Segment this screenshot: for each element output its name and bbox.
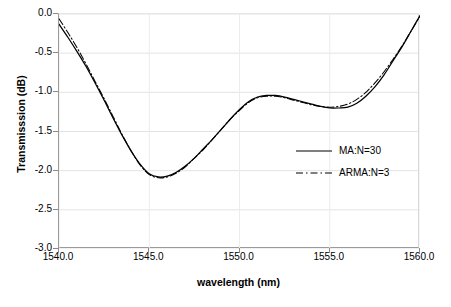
- y-tick-label: -2.0: [4, 165, 52, 175]
- x-tick-mark: [419, 248, 420, 253]
- x-tick-label: 1540.0: [28, 252, 88, 262]
- y-tick-label: -0.5: [4, 47, 52, 57]
- y-axis-title: Transmisssion (dB): [15, 24, 27, 224]
- gridlines: [59, 14, 420, 249]
- x-tick-mark: [148, 248, 149, 253]
- legend-label-arma: ARMA:N=3: [339, 168, 389, 178]
- x-tick-mark: [239, 248, 240, 253]
- legend-item-arma: ARMA:N=3: [295, 162, 410, 184]
- x-tick-mark: [329, 248, 330, 253]
- plot-area: [58, 13, 419, 248]
- x-axis-title: wavelength (nm): [58, 276, 419, 288]
- x-tick-label: 1545.0: [118, 252, 178, 262]
- chart-legend: MA:N=30 ARMA:N=3: [295, 140, 410, 184]
- x-tick-label: 1550.0: [209, 252, 269, 262]
- y-tick-label: -1.0: [4, 86, 52, 96]
- y-tick-label: -2.5: [4, 204, 52, 214]
- legend-item-ma: MA:N=30: [295, 140, 410, 162]
- chart-canvas: [59, 14, 420, 249]
- x-tick-label: 1560.0: [389, 252, 449, 262]
- y-tick-label: -1.5: [4, 126, 52, 136]
- y-tick-label: 0.0: [4, 8, 52, 18]
- legend-line-solid-icon: [295, 146, 333, 156]
- x-tick-label: 1555.0: [299, 252, 359, 262]
- transmission-spectrum-chart: 0.0-0.5-1.0-1.5-2.0-2.5-3.0 1540.01545.0…: [0, 0, 451, 307]
- legend-line-dashdot-icon: [295, 168, 333, 178]
- x-tick-mark: [58, 248, 59, 253]
- legend-label-ma: MA:N=30: [339, 146, 381, 156]
